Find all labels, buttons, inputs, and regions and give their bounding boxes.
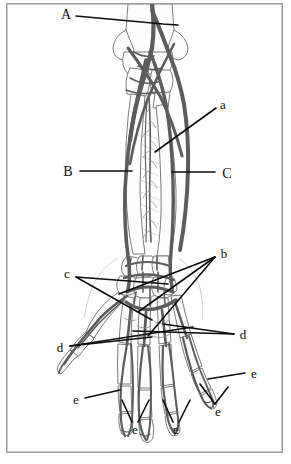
leader-e-left bbox=[85, 390, 120, 398]
label-A: A bbox=[61, 8, 71, 21]
leader-e-mid-right-2 bbox=[179, 400, 190, 422]
label-e-left: e bbox=[73, 393, 79, 406]
anatomy-illustration bbox=[0, 0, 291, 464]
label-C: C bbox=[222, 167, 231, 180]
label-e-right-upper: e bbox=[251, 367, 257, 380]
label-e-mid-left: e bbox=[132, 423, 138, 436]
label-e-mid-right: e bbox=[173, 423, 179, 436]
label-c: c bbox=[64, 267, 70, 280]
label-e-right-lower: e bbox=[215, 405, 221, 418]
label-d-left: d bbox=[57, 341, 64, 354]
label-B: B bbox=[63, 165, 72, 178]
label-a: a bbox=[220, 98, 226, 111]
leader-e-right-lower-2 bbox=[215, 387, 228, 404]
label-d-right: d bbox=[240, 328, 247, 341]
leader-e-right-upper bbox=[208, 373, 245, 379]
label-b: b bbox=[221, 247, 228, 260]
anatomy-figure: AaBCbcddeeeee bbox=[0, 0, 291, 464]
